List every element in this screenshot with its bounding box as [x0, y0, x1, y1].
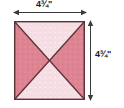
width-dimension-arrow: [13, 8, 87, 17]
height-arrowhead-top: [88, 20, 93, 26]
width-arrowhead-right: [81, 10, 87, 15]
quilt-block-figure: 4¾" 4¾": [0, 0, 124, 108]
height-label: 4¾": [95, 49, 111, 59]
quilt-square: [14, 21, 85, 100]
height-dimension-arrow: [86, 20, 95, 101]
quilt-square-svg: [14, 21, 85, 100]
height-arrowhead-bottom: [88, 95, 93, 101]
width-label: 4¾": [36, 0, 52, 9]
width-arrowhead-left: [13, 10, 19, 15]
